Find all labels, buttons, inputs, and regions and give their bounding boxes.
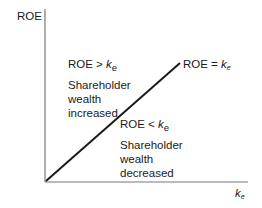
region-below-condition: ROE < ke	[120, 117, 183, 135]
line-label: ROE = ke	[183, 57, 231, 75]
condition-prefix: ROE >	[68, 58, 106, 70]
condition-sub: e	[112, 62, 117, 73]
x-axis-label: ke	[235, 186, 245, 204]
region-above-condition: ROE > ke	[68, 57, 131, 75]
x-axis-label-sub: e	[241, 193, 245, 200]
region-below-annotation: ROE < ke Shareholder wealth decreased	[120, 117, 183, 180]
condition-sub: e	[164, 122, 169, 133]
region-above-annotation: ROE > ke Shareholder wealth increased	[68, 57, 131, 120]
line-label-prefix: ROE =	[183, 58, 221, 70]
condition-prefix: ROE <	[120, 118, 158, 130]
region-below-line: Shareholder	[120, 138, 183, 152]
region-above-line: wealth	[68, 92, 131, 106]
region-below-line: wealth	[120, 152, 183, 166]
line-label-sub: e	[227, 64, 231, 71]
region-below-line: decreased	[120, 166, 183, 180]
region-above-line: Shareholder	[68, 78, 131, 92]
y-axis-label: ROE	[17, 9, 42, 23]
